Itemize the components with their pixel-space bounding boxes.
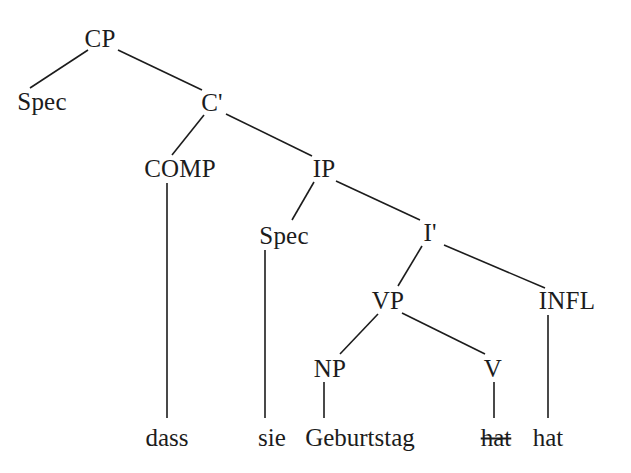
tree-node-v: V — [484, 356, 502, 381]
tree-node-ibar: I' — [423, 220, 436, 245]
syntax-tree-figure: CPSpecC'COMPIPSpecI'VPINFLNPV dasssieGeb… — [0, 0, 631, 473]
tree-node-infl: INFL — [539, 288, 595, 313]
tree-edge — [292, 182, 314, 220]
tree-node-vp: VP — [372, 288, 404, 313]
tree-terminal-t_sie: sie — [258, 425, 286, 450]
tree-terminal-t_dass: dass — [145, 425, 188, 450]
tree-node-ip: IP — [313, 156, 336, 181]
tree-edge — [340, 314, 378, 354]
tree-node-cp: CP — [85, 26, 116, 51]
tree-edge — [30, 50, 88, 88]
tree-edges — [0, 0, 631, 473]
tree-edge — [118, 50, 202, 90]
tree-edge — [172, 115, 204, 155]
tree-edge — [398, 246, 422, 286]
tree-node-ip_spec: Spec — [259, 223, 308, 248]
tree-node-cp_spec: Spec — [17, 89, 66, 114]
tree-terminal-t_geburtstag: Geburtstag — [305, 425, 415, 450]
tree-terminal-t_hat_trace: hat — [481, 425, 512, 450]
tree-node-comp: COMP — [144, 156, 216, 181]
tree-edge — [336, 181, 420, 220]
tree-edge — [444, 245, 545, 288]
tree-node-np: NP — [314, 356, 346, 381]
tree-terminal-t_hat: hat — [533, 425, 564, 450]
tree-node-cbar: C' — [201, 90, 223, 115]
tree-edge — [402, 313, 485, 354]
tree-edge — [226, 114, 312, 156]
